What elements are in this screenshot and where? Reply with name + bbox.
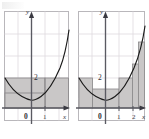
left-origin-label: 0: [24, 112, 28, 121]
right-x-tick-2-label: 2: [132, 113, 136, 121]
right-x-axis-label: x: [141, 113, 146, 121]
right-y-tick-2-label: 2: [98, 73, 102, 82]
riemann-sum-figure: y x 0 1 2: [0, 0, 149, 139]
chart-panel-right: y x 0 1 2 2: [74, 0, 148, 139]
right-rect-4: [119, 78, 133, 108]
left-chart-svg: y x 0 1 2: [0, 0, 74, 139]
left-rect-low-band: [5, 93, 45, 108]
right-x-tick-1-label: 1: [117, 113, 121, 121]
left-rect-3: [45, 78, 69, 108]
chart-panel-left: y x 0 1 2: [0, 0, 74, 139]
left-y-tick-2-label: 2: [34, 73, 38, 82]
left-riemann-rectangles: [5, 78, 69, 108]
right-origin-label: 0: [98, 112, 102, 121]
right-chart-svg: y x 0 1 2 2: [74, 0, 148, 139]
left-x-tick-1-label: 1: [43, 113, 47, 121]
